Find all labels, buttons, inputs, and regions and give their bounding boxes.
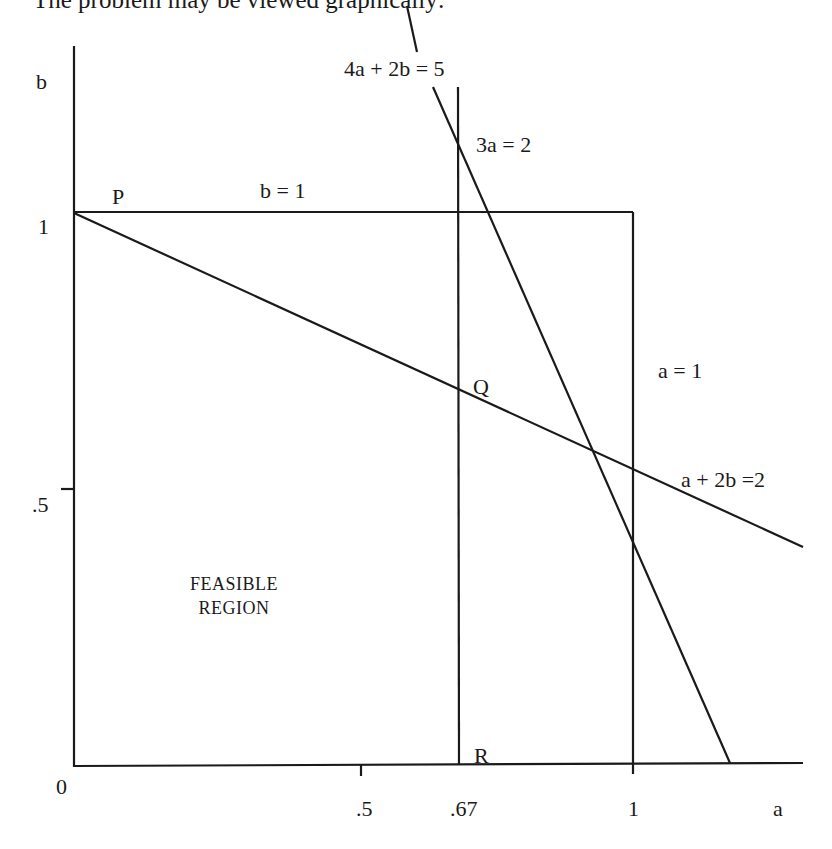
label-b-eq-1: b = 1 xyxy=(260,180,305,202)
origin-label: 0 xyxy=(56,776,67,798)
label-3a-eq-2: 3a = 2 xyxy=(476,134,531,156)
x-tick-label-half: .5 xyxy=(356,798,373,820)
x-tick-label-1: 1 xyxy=(628,798,639,820)
y-tick-label-1: 1 xyxy=(38,216,49,238)
line-4a-2b-eq-5-top xyxy=(407,6,417,52)
region-line-2: REGION xyxy=(190,596,278,620)
chart-plot xyxy=(0,0,832,849)
point-R-label: R xyxy=(474,745,489,767)
a-axis-label: a xyxy=(773,798,783,820)
point-Q-label: Q xyxy=(473,376,489,398)
b-axis-label: b xyxy=(36,71,47,93)
point-P-label: P xyxy=(112,186,124,208)
label-4a-2b-eq-5: 4a + 2b = 5 xyxy=(344,58,445,80)
label-a-2b-eq-2: a + 2b =2 xyxy=(681,469,765,491)
line-4a-2b-eq-5 xyxy=(433,87,730,763)
region-line-1: FEASIBLE xyxy=(190,572,278,596)
x-tick-label-67: .67 xyxy=(450,798,478,820)
x-axis xyxy=(74,763,803,766)
label-a-eq-1: a = 1 xyxy=(658,360,702,382)
y-tick-label-half: .5 xyxy=(32,494,49,516)
line-3a-eq-2 xyxy=(458,87,459,765)
feasible-region-label: FEASIBLE REGION xyxy=(190,572,278,620)
